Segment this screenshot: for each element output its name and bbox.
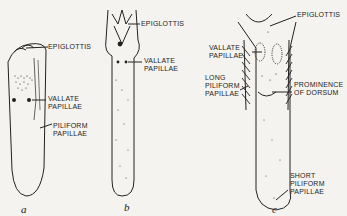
label-a-piliform-papillae: PILIFORM PAPILLAE — [53, 122, 88, 138]
caption-b: b — [124, 201, 130, 213]
caption-c: c — [272, 203, 277, 215]
tongue-c — [238, 14, 296, 210]
label-b-vallate-papillae: VALLATE PAPILLAE — [144, 57, 178, 73]
label-c-vallate-papillae: VALLATE PAPILLAE — [209, 44, 243, 60]
label-c-prominence-of-dorsum: PROMINENCE OF DORSUM — [294, 81, 343, 97]
label-a-vallate-papillae: VALLATE PAPILLAE — [48, 95, 82, 111]
label-c-epiglottis: EPIGLOTTIS — [297, 11, 340, 19]
caption-a: a — [21, 203, 27, 215]
label-b-epiglottis: EPIGLOTTIS — [141, 20, 184, 28]
tongue-b — [106, 10, 142, 196]
tongue-diagram: EPIGLOTTIS VALLATE PAPILLAE PILIFORM PAP… — [0, 0, 347, 216]
label-c-short-piliform-papillae: SHORT PILIFORM PAPILLAE — [290, 172, 325, 196]
label-c-long-piliform-papillae: LONG PILIFORM PAPILLAE — [205, 74, 240, 98]
label-a-epiglottis: EPIGLOTTIS — [48, 43, 91, 51]
tongue-a — [8, 44, 52, 196]
